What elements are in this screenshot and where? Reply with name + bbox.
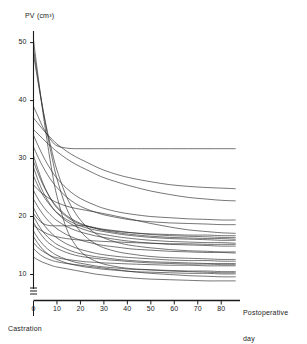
x-tick-label: 10 bbox=[50, 305, 64, 312]
chart-line bbox=[34, 54, 236, 252]
y-tick-label: 10 bbox=[13, 270, 27, 277]
y-tick-label: 20 bbox=[13, 212, 27, 219]
chart-figure: PV (cm³) Postoperative day Castration 10… bbox=[0, 0, 307, 344]
chart-line bbox=[34, 118, 236, 189]
y-tick-label: 30 bbox=[13, 154, 27, 161]
chart-line bbox=[34, 214, 236, 238]
x-tick-label: 20 bbox=[73, 305, 87, 312]
y-tick-label: 50 bbox=[13, 38, 27, 45]
y-tick-label: 40 bbox=[13, 96, 27, 103]
x-tick-label: 0 bbox=[27, 305, 41, 312]
x-tick-label: 70 bbox=[191, 305, 205, 312]
x-tick-label: 60 bbox=[167, 305, 181, 312]
x-tick-label: 30 bbox=[97, 305, 111, 312]
x-tick-label: 40 bbox=[120, 305, 134, 312]
x-tick-label: 80 bbox=[214, 305, 228, 312]
y-axis-title: PV (cm³) bbox=[25, 12, 54, 20]
x-axis-title: Postoperative day bbox=[243, 292, 288, 344]
chart-curves bbox=[34, 40, 236, 281]
chart-line bbox=[34, 135, 236, 220]
chart-line bbox=[34, 217, 236, 264]
x-axis-ticks bbox=[34, 301, 222, 305]
chart-line bbox=[34, 48, 236, 259]
chart-line bbox=[34, 106, 236, 148]
x-axis-title-line2: day bbox=[243, 335, 288, 344]
x-tick-label: 50 bbox=[144, 305, 158, 312]
castration-label: Castration bbox=[8, 325, 42, 332]
x-axis-title-line1: Postoperative bbox=[243, 309, 288, 318]
